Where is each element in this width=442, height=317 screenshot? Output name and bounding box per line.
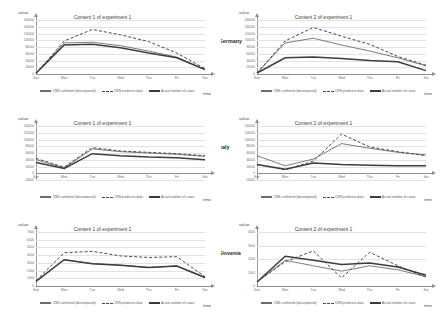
legend-item-actual[interactable]: Actual number of cases: [149, 301, 195, 305]
series-line-actual: [36, 44, 205, 73]
legend-item-actual[interactable]: Actual number of cases: [149, 89, 195, 93]
y-tick-label: 20000: [25, 165, 34, 169]
y-tick-label: 1000: [248, 271, 255, 275]
y-tick-label: 140000: [24, 25, 34, 29]
legend: CNN confirmed (decomposed)CNN predictive…: [261, 301, 415, 305]
legend-swatch-icon: [40, 196, 51, 198]
legend-label: CNN predictive data: [114, 195, 143, 199]
x-tick-label: Sun: [33, 76, 39, 80]
panel-body: valueContent 2 of experiment 1Prediction…: [227, 216, 436, 314]
x-tick-label: Wed: [338, 76, 345, 80]
y-tick-label: 60000: [25, 151, 34, 155]
x-tick-label: Fri: [175, 288, 179, 292]
x-tick-label: Tue: [311, 288, 317, 292]
legend-item-cnn_predicted[interactable]: CNN predictive data: [323, 195, 364, 199]
x-tick-label: Sun: [254, 76, 260, 80]
legend-item-cnn_decomposed[interactable]: CNN confirmed (decomposed): [261, 301, 317, 305]
x-axis-arrow-icon: [211, 284, 215, 288]
legend-label: Actual number of cases: [161, 301, 194, 305]
legend-label: CNN confirmed (decomposed): [53, 301, 96, 305]
legend-item-cnn_decomposed[interactable]: CNN confirmed (decomposed): [40, 195, 96, 199]
legend: CNN confirmed (decomposed)CNN predictive…: [40, 195, 194, 199]
legend-swatch-icon: [370, 196, 381, 198]
legend-label: CNN predictive data: [335, 89, 364, 93]
legend-swatch-icon: [261, 90, 272, 92]
series-line-cnn_decomposed: [257, 38, 426, 73]
legend-item-cnn_predicted[interactable]: CNN predictive data: [102, 195, 143, 199]
y-tick-label: 100000: [245, 38, 255, 42]
legend-item-cnn_predicted[interactable]: CNN predictive data: [323, 301, 364, 305]
y-tick-label: 40000: [25, 158, 34, 162]
y-tick-label: 7000: [27, 230, 34, 234]
legend-item-cnn_predicted[interactable]: CNN predictive data: [102, 301, 143, 305]
country-annotation: Prediction results of Slovenia: [221, 250, 241, 256]
x-axis-line: [36, 74, 211, 75]
legend: CNN confirmed (decomposed)CNN predictive…: [261, 89, 415, 93]
x-axis-arrow-icon: [211, 72, 215, 76]
x-axis-arrow-icon: [432, 284, 436, 288]
legend-label: CNN predictive data: [114, 301, 143, 305]
y-tick-label: 100000: [24, 138, 34, 142]
series-line-actual: [36, 260, 205, 282]
legend-label: Actual number of cases: [161, 195, 194, 199]
x-tick-label: Tue: [90, 76, 96, 80]
legend-swatch-icon: [323, 91, 334, 92]
legend-label: CNN predictive data: [114, 89, 143, 93]
legend-swatch-icon: [370, 90, 381, 92]
x-axis-arrow-icon: [432, 72, 436, 76]
legend-item-actual[interactable]: Actual number of cases: [370, 301, 416, 305]
chart-grid: valueContent 1 of experiment 10200004000…: [0, 0, 442, 317]
series-line-cnn_decomposed: [36, 260, 205, 282]
x-tick-label: Thu: [367, 288, 373, 292]
legend-swatch-icon: [323, 303, 334, 304]
legend-swatch-icon: [102, 303, 113, 304]
x-tick-label: Sun: [254, 288, 260, 292]
series-canvas: [36, 232, 205, 286]
x-axis-line: [257, 286, 432, 287]
y-tick-label: 140000: [245, 25, 255, 29]
y-tick-label: 80000: [25, 45, 34, 49]
x-tick-label: Sat: [424, 76, 429, 80]
legend-item-actual[interactable]: Actual number of cases: [370, 89, 416, 93]
x-tick-label: Mon: [282, 288, 288, 292]
series-line-cnn_decomposed: [257, 144, 426, 166]
legend-item-actual[interactable]: Actual number of cases: [149, 195, 195, 199]
legend-item-cnn_decomposed[interactable]: CNN confirmed (decomposed): [261, 195, 317, 199]
y-axis-arrow-icon: [34, 225, 38, 229]
x-tick-label: Fri: [175, 76, 179, 80]
legend-item-cnn_decomposed[interactable]: CNN confirmed (decomposed): [40, 89, 96, 93]
x-axis-arrow-icon: [211, 171, 215, 175]
plot-area: 0200004000060000800001000001200001400001…: [257, 20, 426, 74]
plot-area: -200000200004000060000800001000001200001…: [36, 126, 205, 180]
series-canvas: [36, 20, 205, 74]
legend-item-cnn_decomposed[interactable]: CNN confirmed (decomposed): [40, 301, 96, 305]
y-tick-label: 6000: [27, 238, 34, 242]
legend-item-cnn_predicted[interactable]: CNN predictive data: [323, 89, 364, 93]
chart-panel-italy-content-2: valueContent 2 of experiment 1Prediction…: [221, 106, 442, 212]
y-tick-label: 4000: [27, 253, 34, 257]
legend: CNN confirmed (decomposed)CNN predictive…: [40, 89, 194, 93]
chart-panel-italy-content-1: valueContent 1 of experiment 1-200000200…: [0, 106, 221, 212]
legend-swatch-icon: [323, 197, 334, 198]
y-tick-label: 2000: [27, 269, 34, 273]
chart-panel-germany-content-1: valueContent 1 of experiment 10200004000…: [0, 0, 221, 106]
plot-area: -200000200004000060000800001000001200001…: [257, 126, 426, 180]
x-tick-label: Wed: [117, 288, 124, 292]
plot-area: 0200004000060000800001000001200001400001…: [36, 20, 205, 74]
legend-label: CNN confirmed (decomposed): [274, 89, 317, 93]
y-tick-label: 1000: [27, 276, 34, 280]
x-tick-label: Wed: [338, 288, 345, 292]
legend-item-actual[interactable]: Actual number of cases: [370, 195, 416, 199]
legend-item-cnn_decomposed[interactable]: CNN confirmed (decomposed): [261, 89, 317, 93]
series-line-actual: [257, 163, 426, 169]
legend: CNN confirmed (decomposed)CNN predictive…: [261, 195, 415, 199]
series-canvas: [257, 126, 426, 180]
x-axis-title: time: [424, 197, 432, 202]
legend-label: CNN confirmed (decomposed): [274, 195, 317, 199]
legend-item-cnn_predicted[interactable]: CNN predictive data: [102, 89, 143, 93]
y-tick-label: 40000: [246, 158, 255, 162]
panel-body: valueContent 1 of experiment 10200004000…: [6, 4, 215, 102]
y-tick-label: 20000: [25, 65, 34, 69]
x-tick-label: Mon: [282, 76, 288, 80]
y-tick-label: 160000: [24, 18, 34, 22]
